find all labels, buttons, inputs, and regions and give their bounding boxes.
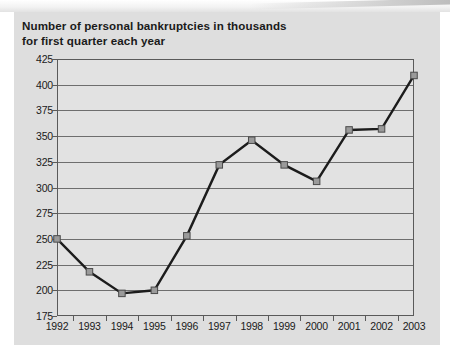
x-axis-label-1994: 1994 bbox=[111, 320, 134, 332]
y-axis-label-275: 275 bbox=[19, 207, 53, 219]
data-point-1995 bbox=[151, 287, 158, 294]
x-axis-label-1997: 1997 bbox=[208, 320, 231, 332]
data-point-1993 bbox=[86, 269, 93, 276]
y-axis-label-200: 200 bbox=[19, 284, 53, 296]
data-series-bankruptcies bbox=[57, 59, 414, 316]
x-axis-label-2001: 2001 bbox=[338, 320, 361, 332]
data-point-2003 bbox=[411, 72, 418, 79]
line-chart: 175200225250275300325350375400425 199219… bbox=[14, 12, 440, 345]
y-axis-label-400: 400 bbox=[19, 79, 53, 91]
x-axis-label-1995: 1995 bbox=[143, 320, 166, 332]
x-axis-label-2002: 2002 bbox=[370, 320, 393, 332]
series-line bbox=[57, 75, 414, 293]
x-axis-label-2000: 2000 bbox=[305, 320, 328, 332]
data-point-1998 bbox=[248, 137, 255, 144]
data-point-1996 bbox=[184, 233, 191, 240]
y-axis-label-300: 300 bbox=[19, 182, 53, 194]
x-axis-label-1998: 1998 bbox=[240, 320, 263, 332]
page-canvas: Number of personal bankruptcies in thous… bbox=[0, 0, 450, 358]
y-axis-label-375: 375 bbox=[19, 104, 53, 116]
data-point-1992 bbox=[54, 236, 61, 243]
page-curl-shading bbox=[0, 0, 450, 12]
y-axis-label-350: 350 bbox=[19, 130, 53, 142]
x-axis-label-1996: 1996 bbox=[176, 320, 199, 332]
y-axis-label-425: 425 bbox=[19, 53, 53, 65]
data-point-2000 bbox=[313, 178, 320, 185]
data-point-1994 bbox=[119, 290, 126, 297]
y-axis-label-325: 325 bbox=[19, 156, 53, 168]
data-point-1997 bbox=[216, 162, 223, 169]
x-axis-label-1992: 1992 bbox=[46, 320, 69, 332]
data-point-1999 bbox=[281, 162, 288, 169]
x-axis-label-1999: 1999 bbox=[273, 320, 296, 332]
y-axis-label-250: 250 bbox=[19, 233, 53, 245]
y-axis: 175200225250275300325350375400425 bbox=[14, 59, 53, 316]
data-point-2001 bbox=[346, 127, 353, 133]
x-axis-label-1993: 1993 bbox=[78, 320, 101, 332]
x-axis: 1992199319941995199619971998199920002001… bbox=[57, 320, 414, 336]
x-axis-label-2003: 2003 bbox=[403, 320, 426, 332]
y-axis-label-225: 225 bbox=[19, 259, 53, 271]
data-point-2002 bbox=[378, 126, 385, 132]
